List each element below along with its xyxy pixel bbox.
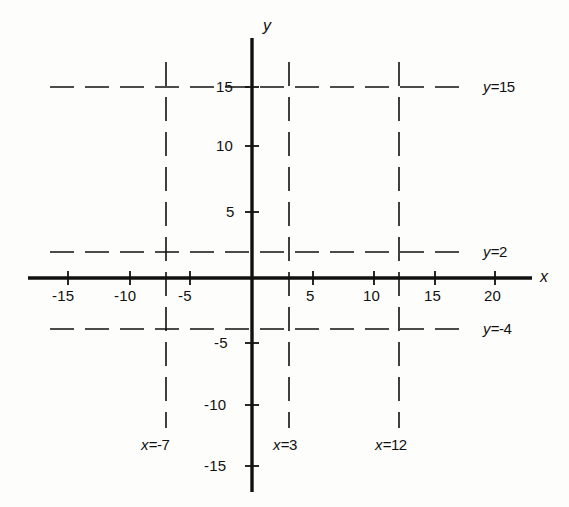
equation-value: =3 [281, 436, 297, 453]
x-tick-label-10: 10 [363, 288, 380, 303]
x-tick-label-5: 5 [306, 288, 315, 303]
equation-label-y--4: y=-4 [483, 321, 511, 336]
y-tick-label-10: 10 [216, 138, 233, 153]
coordinate-plane-figure: y x -15 -10 -5 5 10 15 20 15 10 5 -5 -10… [0, 0, 569, 507]
equation-variable: x [375, 436, 383, 453]
x-tick-label-20: 20 [484, 288, 501, 303]
x-tick-label--15: -15 [52, 288, 74, 303]
equation-variable: y [483, 78, 491, 95]
equation-variable: x [141, 436, 149, 453]
x-tick-label-15: 15 [424, 288, 441, 303]
x-axis-label: x [540, 269, 548, 285]
axes [28, 38, 532, 492]
equation-value: =-7 [149, 436, 170, 453]
equation-value: =12 [383, 436, 407, 453]
equation-label-x-3: x=3 [273, 437, 297, 452]
y-tick-label--10: -10 [204, 397, 226, 412]
equation-variable: y [483, 320, 491, 337]
equation-label-x-12: x=12 [375, 437, 407, 452]
equation-label-y-2: y=2 [483, 244, 507, 259]
equation-variable: y [483, 243, 491, 260]
equation-variable: x [273, 436, 281, 453]
x-tick-label--10: -10 [114, 288, 136, 303]
y-tick-label--15: -15 [204, 458, 226, 473]
y-tick-label--5: -5 [214, 335, 228, 350]
y-tick-label-5: 5 [226, 204, 235, 219]
equation-value: =15 [491, 78, 515, 95]
vertical-dashed-lines [166, 62, 399, 428]
y-tick-label-15: 15 [216, 79, 233, 94]
x-tick-label--5: -5 [178, 288, 192, 303]
equation-value: =2 [491, 243, 507, 260]
equation-value: =-4 [491, 320, 512, 337]
y-axis-label: y [263, 18, 271, 34]
equation-label-y-15: y=15 [483, 79, 515, 94]
equation-label-x--7: x=-7 [141, 437, 169, 452]
horizontal-dashed-lines [50, 87, 470, 329]
